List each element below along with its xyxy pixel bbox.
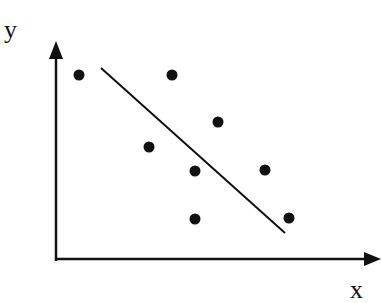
x-axis-label: x — [350, 275, 363, 303]
data-point-3 — [213, 117, 224, 128]
data-points — [74, 70, 295, 225]
data-point-2 — [167, 70, 178, 81]
data-point-5 — [190, 166, 201, 177]
axes — [49, 41, 381, 266]
trend-line — [101, 68, 285, 233]
data-point-8 — [284, 213, 295, 224]
scatter-plot: y x — [0, 0, 381, 303]
y-axis-label: y — [4, 15, 17, 44]
y-axis-arrowhead — [49, 41, 63, 59]
data-point-7 — [190, 214, 201, 225]
data-point-1 — [74, 70, 85, 81]
data-point-4 — [144, 142, 155, 153]
x-axis-arrowhead — [364, 252, 381, 266]
data-point-6 — [260, 165, 271, 176]
